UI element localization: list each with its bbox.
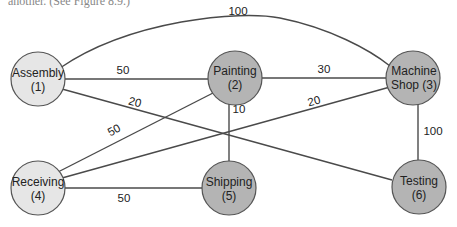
node-number: Shop (3) xyxy=(391,78,437,92)
node-number: (6) xyxy=(412,188,427,202)
node-shipping: Shipping (5) xyxy=(202,161,256,215)
node-painting: Painting (2) xyxy=(208,51,262,105)
node-label: Machine xyxy=(391,64,437,78)
node-label: Testing xyxy=(400,174,438,188)
node-label: Receiving xyxy=(12,175,65,189)
node-label: Shipping xyxy=(206,175,253,189)
node-machine-shop: Machine Shop (3) xyxy=(386,51,440,105)
node-label: Assembly xyxy=(12,66,64,80)
flow-network-diagram: 100 50 20 30 50 10 20 100 50 Assembly (1… xyxy=(0,0,457,227)
edge-weight-1-2: 50 xyxy=(117,64,130,76)
edge-weight-2-3: 30 xyxy=(318,63,331,75)
node-number: (2) xyxy=(228,78,243,92)
node-number: (1) xyxy=(31,80,46,94)
edge-weight-2-4: 50 xyxy=(106,122,123,139)
node-assembly: Assembly (1) xyxy=(11,52,65,106)
node-testing: Testing (6) xyxy=(392,160,446,214)
edge-weight-4-5: 50 xyxy=(118,192,131,204)
node-receiving: Receiving (4) xyxy=(11,161,65,215)
node-number: (5) xyxy=(222,189,237,203)
node-label: Painting xyxy=(213,64,256,78)
edge-weight-3-6: 100 xyxy=(423,125,442,137)
edge-weight-1-3: 100 xyxy=(228,5,247,17)
node-number: (4) xyxy=(31,189,46,203)
